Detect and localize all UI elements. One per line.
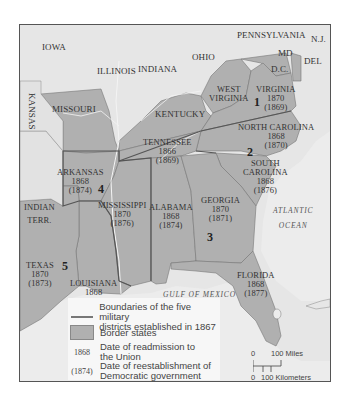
district-number-5: 5: [62, 259, 68, 274]
district-number-3: 3: [207, 230, 213, 245]
legend-swatch-icon: [68, 325, 96, 340]
state-label-texas: TEXAS 1870 (1873): [26, 261, 54, 288]
state-label-virginia: VIRGINIA 1870 (1869): [256, 85, 296, 112]
state-label-md: MD: [278, 49, 293, 58]
legend-item-readmission: 1868 Date of readmission to the Union: [68, 342, 195, 362]
state-label-missouri: MISSOURI: [52, 105, 96, 114]
water-label-atlantic: ATLANTIC OCEAN: [273, 205, 313, 231]
state-label-indian-territory: INDIAN TERR.: [24, 203, 55, 225]
state-label-south-carolina: SOUTH CAROLINA 1868 (1876): [243, 159, 288, 195]
state-label-west-virginia: WEST VIRGINIA: [209, 85, 249, 103]
state-label-georgia: GEORGIA 1870 (1871): [201, 196, 240, 223]
state-label-florida: FLORIDA 1868 (1877): [237, 271, 275, 298]
scale-zero-miles: 0: [251, 349, 255, 358]
legend: Boundaries of the five military district…: [68, 298, 220, 380]
scale-miles-label: 100 Miles: [271, 349, 303, 358]
state-label-dc: D.C.: [271, 65, 288, 74]
scale-ruler: [253, 360, 283, 372]
district-number-2: 2: [247, 145, 253, 160]
state-label-nj: N.J.: [311, 35, 326, 44]
legend-item-border-states: Border states: [68, 325, 157, 340]
state-label-arkansas: ARKANSAS 1868 (1874): [57, 168, 104, 195]
state-label-illinois: ILLINOIS: [97, 67, 136, 76]
state-label-ohio: OHIO: [192, 53, 215, 62]
state-label-alabama: ALABAMA 1868 (1874): [149, 203, 193, 230]
scale-km-label: 100 Kilometers: [261, 373, 311, 382]
state-label-kansas: KANSAS: [27, 93, 36, 130]
state-label-iowa: IOWA: [42, 43, 66, 52]
state-label-mississippi: MISSISSIPPI 1870 (1876): [98, 201, 146, 228]
state-label-indiana: INDIANA: [138, 65, 177, 74]
state-label-kentucky: KENTUCKY: [155, 110, 205, 119]
legend-item-democratic: (1874) Date of reestablishment of Democr…: [68, 361, 211, 381]
state-label-del: DEL: [304, 57, 322, 66]
legend-line-icon: [68, 316, 95, 318]
district-number-4: 4: [98, 182, 104, 197]
state-label-pennsylvania: PENNSYLVANIA: [237, 31, 306, 40]
district-number-1: 1: [254, 95, 260, 110]
scale-zero-km: 0: [251, 373, 255, 382]
state-label-tennessee: TENNESSEE 1866 (1869): [143, 138, 192, 165]
